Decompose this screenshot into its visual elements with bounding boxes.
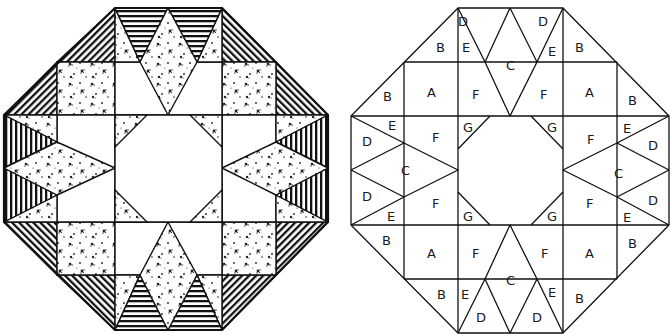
label-b-lower-right: B	[628, 236, 637, 251]
label-e-right-upper: E	[623, 121, 631, 136]
labeled-quilt-block: D D B E C E B B A F F A B E D F G C D E …	[0, 0, 671, 334]
label-b-top-right: B	[575, 40, 584, 55]
label-f-lower-left: F	[472, 246, 479, 261]
label-a-upper-right: A	[585, 85, 594, 100]
label-e-top-right: E	[548, 44, 556, 59]
label-d-bottom-right: D	[532, 310, 542, 325]
label-a-upper-left: A	[427, 85, 436, 100]
label-f-right-lower: F	[586, 196, 593, 211]
label-g-top-right: G	[547, 120, 557, 135]
label-f-lower-right: F	[541, 246, 548, 261]
label-f-upper-right: F	[540, 87, 547, 102]
label-d-left-upper: D	[362, 134, 372, 149]
label-d-right-upper: D	[648, 138, 658, 153]
label-e-right-lower: E	[623, 210, 631, 225]
label-d-left-lower: D	[362, 189, 372, 204]
label-b-lower-left: B	[382, 233, 391, 248]
label-b-bottom-left: B	[437, 287, 446, 302]
label-b-top-left: B	[436, 40, 445, 55]
label-g-bottom-left: G	[463, 209, 473, 224]
label-g-bottom-right: G	[547, 209, 557, 224]
label-d-bottom-left: D	[476, 310, 486, 325]
label-a-lower-left: A	[427, 246, 436, 261]
label-b-upper-right: B	[628, 93, 637, 108]
label-c-top: C	[506, 58, 515, 73]
label-b-upper-left: B	[383, 89, 392, 104]
label-g-top-left: G	[463, 120, 473, 135]
label-f-left-upper: F	[432, 130, 439, 145]
label-e-top-left: E	[462, 40, 470, 55]
labeled-quilt-svg: D D B E C E B B A F F A B E D F G C D E …	[0, 0, 671, 334]
label-c-bottom: C	[506, 273, 515, 288]
label-d-top-left: D	[458, 14, 468, 29]
label-e-left-upper: E	[388, 118, 396, 133]
label-e-bottom-right: E	[548, 285, 556, 300]
label-e-left-lower: E	[387, 209, 395, 224]
label-f-right-upper: F	[587, 132, 594, 147]
label-f-upper-left: F	[472, 87, 479, 102]
label-f-left-lower: F	[432, 196, 439, 211]
label-e-bottom-left: E	[461, 287, 469, 302]
label-a-lower-right: A	[585, 246, 594, 261]
label-c-right: C	[614, 166, 623, 181]
label-d-top-right: D	[538, 14, 548, 29]
label-b-bottom-right: B	[575, 291, 584, 306]
label-d-right-lower: D	[648, 193, 658, 208]
label-c-left: C	[401, 163, 410, 178]
